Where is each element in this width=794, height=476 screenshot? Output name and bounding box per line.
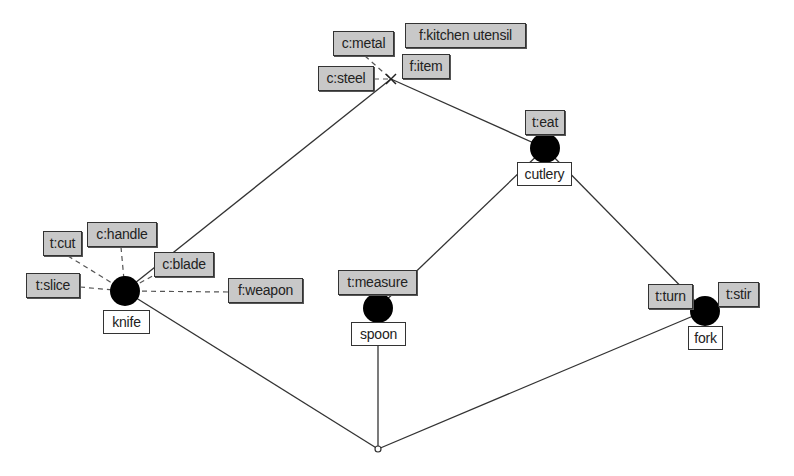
object-label-fork: fork xyxy=(688,326,723,350)
attr-label-f-item: f:item xyxy=(402,54,450,79)
label-leaders xyxy=(68,56,391,292)
object-label-knife: knife xyxy=(103,310,150,334)
attr-label-t-cut: t:cut xyxy=(43,231,82,256)
attr-label-f-weapon: f:weapon xyxy=(228,278,303,303)
attr-label-t-turn: t:turn xyxy=(648,284,693,309)
object-label-spoon: spoon xyxy=(351,322,406,346)
attr-label-t-measure: t:measure xyxy=(338,270,417,295)
node-spoon[interactable] xyxy=(363,293,393,323)
attr-label-c-blade: c:blade xyxy=(154,252,214,277)
edge-knife-bottom xyxy=(125,291,378,449)
attr-label-t-slice: t:slice xyxy=(26,273,80,298)
object-label-cutlery: cutlery xyxy=(517,162,572,186)
attr-label-t-stir: t:stir xyxy=(718,282,759,307)
edge-top-cutlery xyxy=(391,79,545,148)
attr-label-f-kitchen-utensil: f:kitchen utensil xyxy=(405,23,526,48)
attr-label-c-handle: c:handle xyxy=(87,222,157,247)
attr-label-t-eat: t:eat xyxy=(525,110,565,135)
node-cutlery[interactable] xyxy=(530,133,560,163)
attr-label-c-metal: c:metal xyxy=(333,31,394,56)
attr-label-c-steel: c:steel xyxy=(318,66,374,91)
bottom-node[interactable] xyxy=(375,446,381,452)
node-fork[interactable] xyxy=(690,296,720,326)
leader-f-weapon xyxy=(125,291,228,292)
node-knife[interactable] xyxy=(110,276,140,306)
edge-fork-bottom xyxy=(378,311,705,449)
